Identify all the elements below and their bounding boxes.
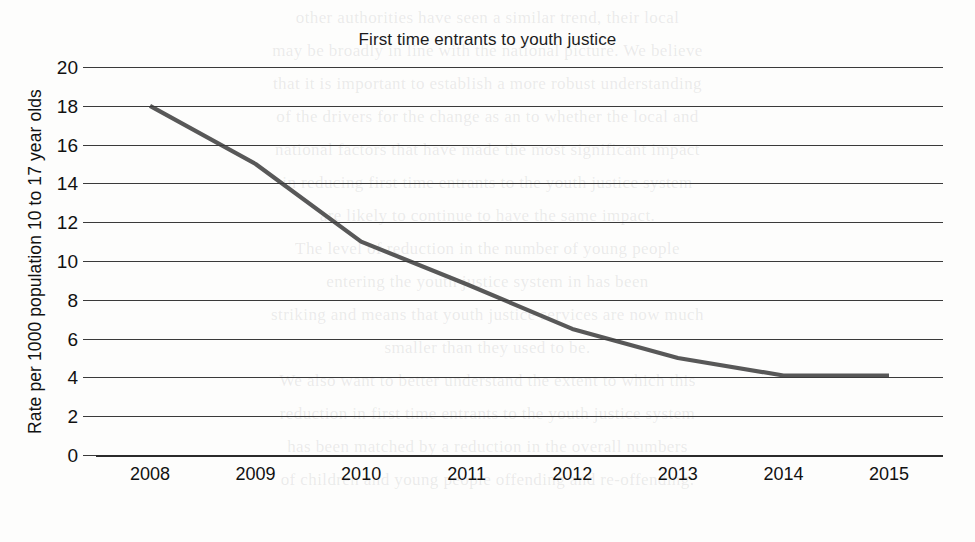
y-tick-mark	[83, 261, 96, 262]
gridline	[96, 222, 943, 223]
x-tick-label: 2011	[422, 465, 512, 483]
y-tick-mark	[83, 377, 96, 378]
x-tick-label: 2008	[105, 465, 195, 483]
gridline	[96, 416, 943, 417]
y-tick-label: 16	[20, 136, 78, 155]
y-tick-mark	[83, 300, 96, 301]
y-tick-label: 8	[20, 291, 78, 310]
gridline	[96, 300, 943, 301]
x-tick-label: 2012	[527, 465, 617, 483]
x-tick-label: 2009	[211, 465, 301, 483]
y-tick-mark	[83, 145, 96, 146]
gridline	[96, 67, 943, 68]
y-tick-mark	[83, 455, 96, 456]
x-tick-label: 2010	[316, 465, 406, 483]
y-tick-mark	[83, 222, 96, 223]
gridline	[96, 145, 943, 146]
gridline	[96, 183, 943, 184]
y-tick-mark	[83, 339, 96, 340]
chart-page: other authorities have seen a similar tr…	[0, 0, 975, 542]
y-tick-label: 4	[20, 368, 78, 387]
y-tick-label: 10	[20, 252, 78, 271]
x-tick-label: 2015	[844, 465, 934, 483]
chart-title: First time entrants to youth justice	[0, 30, 975, 50]
y-tick-label: 14	[20, 174, 78, 193]
y-tick-label: 6	[20, 330, 78, 349]
plot-area: 0246810121416182020082009201020112012201…	[96, 67, 943, 455]
gridline	[96, 106, 943, 107]
y-tick-label: 18	[20, 97, 78, 116]
x-tick-label: 2013	[633, 465, 723, 483]
y-tick-label: 12	[20, 213, 78, 232]
line-chart: First time entrants to youth justice Rat…	[0, 0, 975, 542]
y-tick-mark	[83, 416, 96, 417]
y-tick-mark	[83, 183, 96, 184]
x-tick-label: 2014	[738, 465, 828, 483]
y-tick-label: 0	[20, 446, 78, 465]
x-axis-line	[96, 455, 943, 457]
y-tick-mark	[83, 67, 96, 68]
gridline	[96, 377, 943, 378]
y-tick-label: 2	[20, 407, 78, 426]
y-tick-mark	[83, 106, 96, 107]
gridline	[96, 261, 943, 262]
gridline	[96, 339, 943, 340]
y-tick-label: 20	[20, 58, 78, 77]
